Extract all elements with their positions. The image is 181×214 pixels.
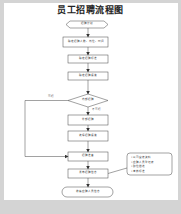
step4-node: 外部招聘 bbox=[68, 119, 108, 122]
step3-node: 确定招聘渠道 bbox=[68, 75, 108, 78]
yes-edge-label: 可行 bbox=[48, 96, 54, 99]
materials-callout: • 公司宣传资料 • 应聘人员登记表 • 职位描述 • 考核标准 bbox=[131, 156, 154, 174]
end-node: 收集应聘人员信息 bbox=[62, 191, 113, 194]
callout-item: • 考核标准 bbox=[131, 170, 154, 175]
start-node: 招聘计划 bbox=[66, 23, 108, 26]
no-edge-label: 不可行 bbox=[92, 109, 101, 112]
step1-node: 确定招聘人数、岗位、时间 bbox=[63, 41, 108, 44]
step5-node: 选择招聘渠道 bbox=[68, 135, 108, 138]
flowchart-shapes bbox=[0, 0, 181, 214]
step7-node: 发布招聘信息 bbox=[68, 172, 108, 175]
step2-node: 确定招聘标准 bbox=[68, 58, 108, 61]
decision-node: 内部招聘 bbox=[68, 99, 108, 102]
step6-node: 招聘准备 bbox=[68, 155, 108, 158]
